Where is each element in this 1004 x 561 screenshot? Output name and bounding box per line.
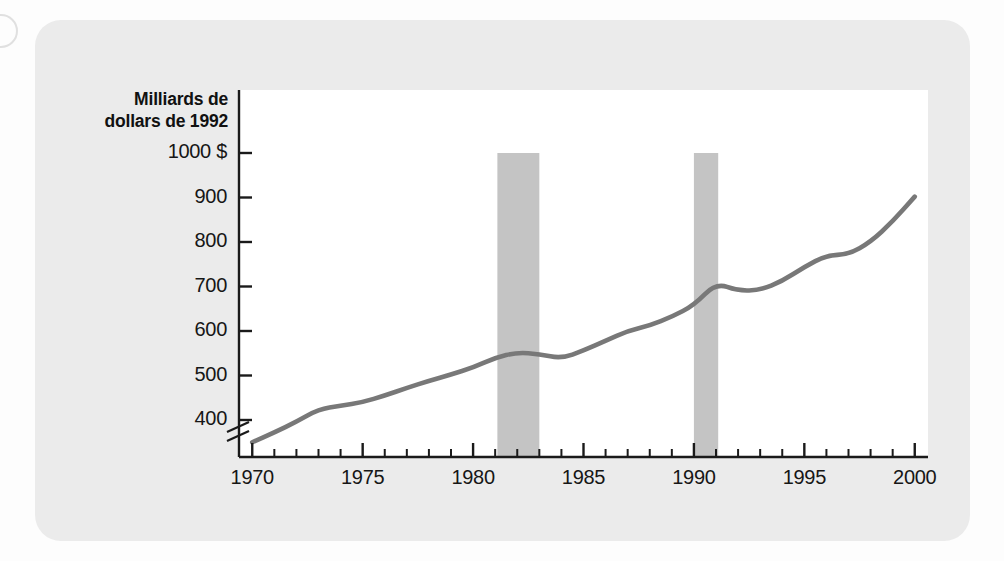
x-tick-label: 1985 bbox=[529, 466, 639, 489]
x-tick-label: 1970 bbox=[197, 466, 307, 489]
x-tick-label: 1980 bbox=[418, 466, 528, 489]
y-tick-label: 600 bbox=[117, 318, 227, 341]
x-tick-label: 1975 bbox=[308, 466, 418, 489]
x-tick-label: 1990 bbox=[639, 466, 749, 489]
y-tick-label: 700 bbox=[117, 274, 227, 297]
y-tick-label: 1000 $ bbox=[117, 140, 227, 163]
recession-bands-group bbox=[497, 153, 718, 457]
axes-group bbox=[227, 90, 928, 457]
x-tick-label: 1995 bbox=[749, 466, 859, 489]
y-tick-label: 500 bbox=[117, 363, 227, 386]
recession-band-1990-1991 bbox=[694, 153, 718, 457]
y-tick-label: 800 bbox=[117, 229, 227, 252]
recession-band-1981-1982 bbox=[497, 153, 539, 457]
figure-root: Milliards de dollars de 1992 40050060070… bbox=[0, 0, 1004, 561]
data-line-depenses bbox=[252, 197, 915, 443]
data-line-group bbox=[252, 197, 915, 443]
y-tick-label: 900 bbox=[117, 185, 227, 208]
x-tick-label: 2000 bbox=[860, 466, 970, 489]
y-tick-label: 400 bbox=[117, 407, 227, 430]
